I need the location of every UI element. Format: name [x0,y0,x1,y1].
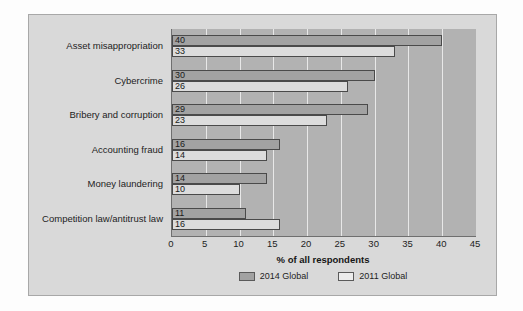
x-tick-label: 25 [335,238,346,249]
chart-legend: 2014 Global 2011 Global [171,271,475,281]
bar-value-label: 16 [175,139,185,150]
category-axis-labels: Asset misappropriationCybercrimeBribery … [29,29,167,236]
x-axis-title: % of all respondents [171,254,475,265]
bar-rows: 403330262923161414101116 [172,29,476,236]
x-axis-ticks: 051015202530354045 [171,238,475,252]
bar-row: 1614 [172,139,476,161]
x-tick-label: 5 [202,238,207,249]
bar-row: 1116 [172,208,476,230]
bar-2011 [172,46,395,57]
bar-2011 [172,115,327,126]
bar-value-label: 40 [175,35,185,46]
legend-label-2011: 2011 Global [359,271,407,281]
category-label: Asset misappropriation [66,40,163,51]
legend-item-2011: 2011 Global [338,271,407,281]
category-label: Cybercrime [114,75,163,86]
x-tick-label: 35 [402,238,413,249]
bar-row: 4033 [172,35,476,57]
series-2014-swatch [239,272,255,281]
legend-label-2014: 2014 Global [260,271,309,281]
bar-2014 [172,173,267,184]
bar-row: 1410 [172,173,476,195]
bar-2011 [172,81,348,92]
category-label: Accounting fraud [92,144,163,155]
legend-item-2014: 2014 Global [239,271,309,281]
x-tick-label: 15 [267,238,278,249]
x-tick-label: 40 [436,238,447,249]
bar-row: 2923 [172,104,476,126]
bar-value-label: 23 [175,115,185,126]
bar-value-label: 10 [175,184,185,195]
category-label: Money laundering [87,178,163,189]
bar-value-label: 33 [175,46,185,57]
bar-value-label: 14 [175,173,185,184]
x-tick-label: 0 [168,238,173,249]
x-tick-label: 45 [470,238,481,249]
x-tick-label: 20 [301,238,312,249]
bar-value-label: 30 [175,70,185,81]
bar-2014 [172,70,375,81]
series-2011-swatch [338,272,354,281]
x-tick-label: 10 [233,238,244,249]
bar-value-label: 14 [175,150,185,161]
bar-value-label: 16 [175,219,185,230]
chart-screenshot: 403330262923161414101116 Asset misapprop… [0,0,523,311]
bar-2011 [172,219,280,230]
bar-value-label: 29 [175,104,185,115]
bar-row: 3026 [172,70,476,92]
bar-2014 [172,104,368,115]
bar-value-label: 11 [175,208,184,219]
bar-2014 [172,35,442,46]
bar-2014 [172,139,280,150]
x-tick-label: 30 [368,238,379,249]
category-label: Bribery and corruption [70,109,163,120]
category-label: Competition law/antitrust law [42,213,163,224]
plot-area: 403330262923161414101116 [171,29,476,237]
bar-value-label: 26 [175,81,185,92]
bar-2011 [172,150,267,161]
chart-card: 403330262923161414101116 Asset misapprop… [28,14,497,296]
bar-chart: 403330262923161414101116 Asset misapprop… [29,15,496,295]
